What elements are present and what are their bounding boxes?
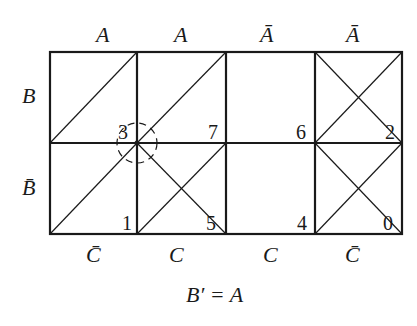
minterm-5: 5: [206, 212, 216, 234]
left-label-bbar: B̄: [22, 175, 35, 200]
minterm-1: 1: [122, 212, 132, 234]
bottom-label-c2: C: [263, 242, 278, 267]
minterm-6: 6: [296, 121, 306, 143]
bottom-label-c1: C: [169, 242, 184, 267]
minterm-0: 0: [383, 212, 393, 234]
top-label-a1: A: [94, 22, 110, 47]
junction-dot: [135, 141, 140, 146]
bottom-label-cbar1: C̄: [86, 242, 101, 267]
minterm-4: 4: [297, 212, 307, 234]
left-label-b: B: [22, 83, 35, 108]
bottom-label-cbar2: C̄: [345, 242, 360, 267]
minterm-3: 3: [118, 121, 128, 143]
top-label-abar2: Ā: [344, 22, 360, 47]
top-label-a2: A: [172, 22, 188, 47]
minterm-7: 7: [208, 121, 218, 143]
top-label-abar1: Ā: [258, 22, 274, 47]
equation: B′ = A: [186, 282, 244, 307]
karnaugh-map: A A Ā Ā B B̄ 3 7 6 2 1 5 4 0 C: [0, 0, 417, 326]
minterm-2: 2: [385, 121, 395, 143]
